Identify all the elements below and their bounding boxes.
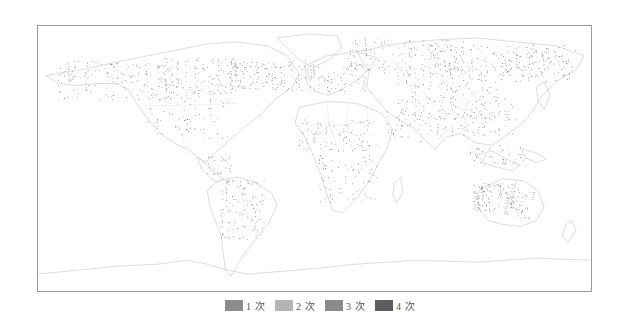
world-map xyxy=(38,26,591,291)
legend-label-1: 1 次 xyxy=(246,298,265,313)
legend-swatch-2 xyxy=(275,300,293,311)
legend-label-3: 3 次 xyxy=(346,298,365,313)
legend-swatch-4 xyxy=(375,300,393,311)
legend-swatch-3 xyxy=(325,300,343,311)
legend-label-4: 4 次 xyxy=(396,298,415,313)
legend-swatch-1 xyxy=(225,300,243,311)
legend-label-2: 2 次 xyxy=(296,298,315,313)
legend-item-2: 2 次 xyxy=(275,298,321,313)
legend-item-4: 4 次 xyxy=(375,298,421,313)
coastlines xyxy=(38,34,591,276)
data-points xyxy=(58,38,576,240)
legend-item-3: 3 次 xyxy=(325,298,371,313)
world-map-frame xyxy=(37,25,592,292)
legend: 1 次 2 次 3 次 4 次 xyxy=(225,298,425,312)
legend-item-1: 1 次 xyxy=(225,298,271,313)
